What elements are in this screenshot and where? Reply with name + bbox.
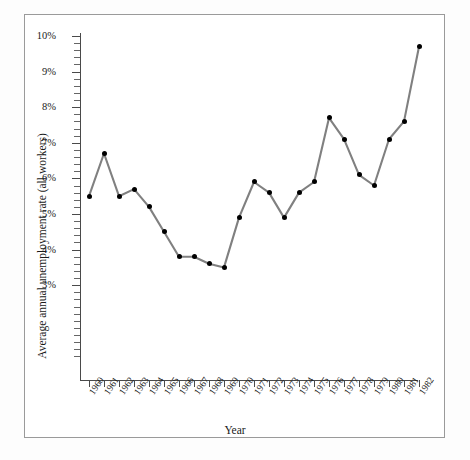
data-point — [177, 254, 182, 259]
data-point — [102, 151, 107, 156]
series-line — [0, 0, 470, 460]
data-point — [327, 115, 332, 120]
chart-figure: 10%9%8%7%6%5%4%3% 1960196119621963196419… — [0, 0, 470, 460]
data-point — [357, 172, 362, 177]
data-point — [192, 254, 197, 259]
data-point — [207, 261, 212, 266]
data-point — [387, 137, 392, 142]
data-point — [132, 187, 137, 192]
data-point — [297, 190, 302, 195]
data-point — [372, 183, 377, 188]
data-point — [267, 190, 272, 195]
data-point — [147, 204, 152, 209]
data-point — [237, 215, 242, 220]
data-point — [342, 137, 347, 142]
data-point — [117, 194, 122, 199]
x-axis-title: Year — [0, 424, 470, 436]
data-point — [162, 229, 167, 234]
data-point — [282, 215, 287, 220]
y-axis-title: Average annual unemployment rate (all wo… — [36, 116, 48, 376]
data-point — [402, 119, 407, 124]
data-point — [417, 44, 422, 49]
data-point — [87, 194, 92, 199]
data-point — [222, 265, 227, 270]
